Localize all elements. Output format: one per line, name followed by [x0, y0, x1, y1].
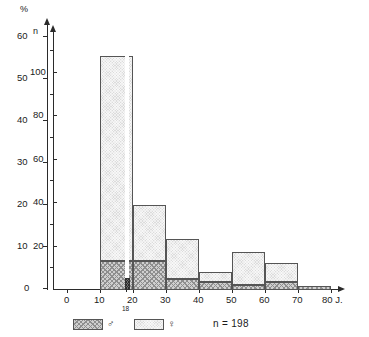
- chart-figure: % 60 50 40 30 20 10 0 n 100 80 60 40 20 …: [0, 0, 369, 337]
- x-axis-label-60: 60: [259, 295, 270, 305]
- left-axis-tick-40: [43, 120, 47, 121]
- right-axis-label-100: 100: [30, 67, 46, 77]
- x-axis-label-0: 0: [64, 295, 69, 305]
- bar-male-60-70: [265, 282, 298, 290]
- right-axis-minor-tick-70: [50, 137, 53, 138]
- left-axis-line: [47, 25, 48, 290]
- legend-label-female: ♀: [168, 318, 176, 329]
- left-axis-tick-10: [43, 246, 47, 247]
- right-axis-line: [53, 32, 54, 290]
- x-axis-label-50: 50: [226, 295, 237, 305]
- x-axis-sublabel-18: 18: [122, 306, 129, 313]
- right-axis-unit-label: n: [33, 27, 38, 36]
- bar-male-30-40: [166, 279, 199, 290]
- right-axis-tick-40: [53, 202, 57, 203]
- right-axis-label-40: 40: [33, 197, 44, 207]
- left-axis-label-60: 60: [17, 31, 28, 41]
- right-axis-minor-tick-90: [50, 94, 53, 95]
- bar-male-40-50: [199, 282, 232, 290]
- sample-size-note: n = 198: [213, 318, 249, 329]
- x-axis-label-20: 20: [127, 295, 138, 305]
- right-axis-tick-60: [53, 159, 57, 160]
- right-axis-minor-tick-10: [50, 267, 53, 268]
- legend-swatch-female: [134, 319, 164, 330]
- right-axis-minor-tick-110: [50, 50, 53, 51]
- x-axis-arrow-icon: [338, 286, 345, 292]
- x-axis-tick-0: [67, 289, 68, 293]
- left-axis-tick-0: [43, 288, 47, 289]
- left-axis-label-20: 20: [17, 199, 28, 209]
- right-axis-minor-tick-30: [50, 224, 53, 225]
- right-axis-minor-tick-50: [50, 180, 53, 181]
- x-axis-label-70: 70: [292, 295, 303, 305]
- right-axis-label-20: 20: [33, 241, 44, 251]
- right-axis-label-60: 60: [33, 154, 44, 164]
- right-axis-tick-80: [53, 115, 57, 116]
- age-18-marker: [125, 278, 130, 290]
- bar-male-50-60: [232, 285, 265, 290]
- x-axis-label-40: 40: [193, 295, 204, 305]
- bar-female-50-60: [232, 252, 265, 285]
- left-axis-label-0: 0: [24, 283, 29, 293]
- legend-label-male: ♂: [107, 318, 115, 329]
- right-axis-label-80: 80: [33, 110, 44, 120]
- bar-female-40-50: [199, 272, 232, 282]
- left-axis-label-50: 50: [17, 73, 28, 83]
- left-axis-unit-label: %: [20, 5, 28, 14]
- age-18-gap: [125, 56, 129, 279]
- bar-male-70-80: [298, 286, 331, 290]
- x-axis-tick-80: [331, 289, 332, 293]
- right-axis-arrow-icon: [50, 25, 56, 32]
- right-axis-tick-20: [53, 246, 57, 247]
- left-axis-label-10: 10: [17, 241, 28, 251]
- bar-male-20-30: [133, 261, 166, 290]
- left-axis-tick-50: [43, 78, 47, 79]
- bar-female-60-70: [265, 263, 298, 282]
- left-axis-tick-60: [43, 36, 47, 37]
- left-axis-label-40: 40: [17, 115, 28, 125]
- left-axis-label-30: 30: [17, 157, 28, 167]
- x-axis-label-10: 10: [94, 295, 105, 305]
- left-axis-tick-30: [43, 162, 47, 163]
- legend-swatch-male: [73, 319, 103, 330]
- x-axis-label-80: 80 J.: [322, 295, 343, 305]
- x-axis-label-30: 30: [160, 295, 171, 305]
- bar-female-20-30: [133, 205, 166, 261]
- left-axis-arrow-icon: [44, 18, 50, 25]
- left-axis-tick-20: [43, 204, 47, 205]
- bar-female-30-40: [166, 239, 199, 279]
- right-axis-tick-100: [53, 72, 57, 73]
